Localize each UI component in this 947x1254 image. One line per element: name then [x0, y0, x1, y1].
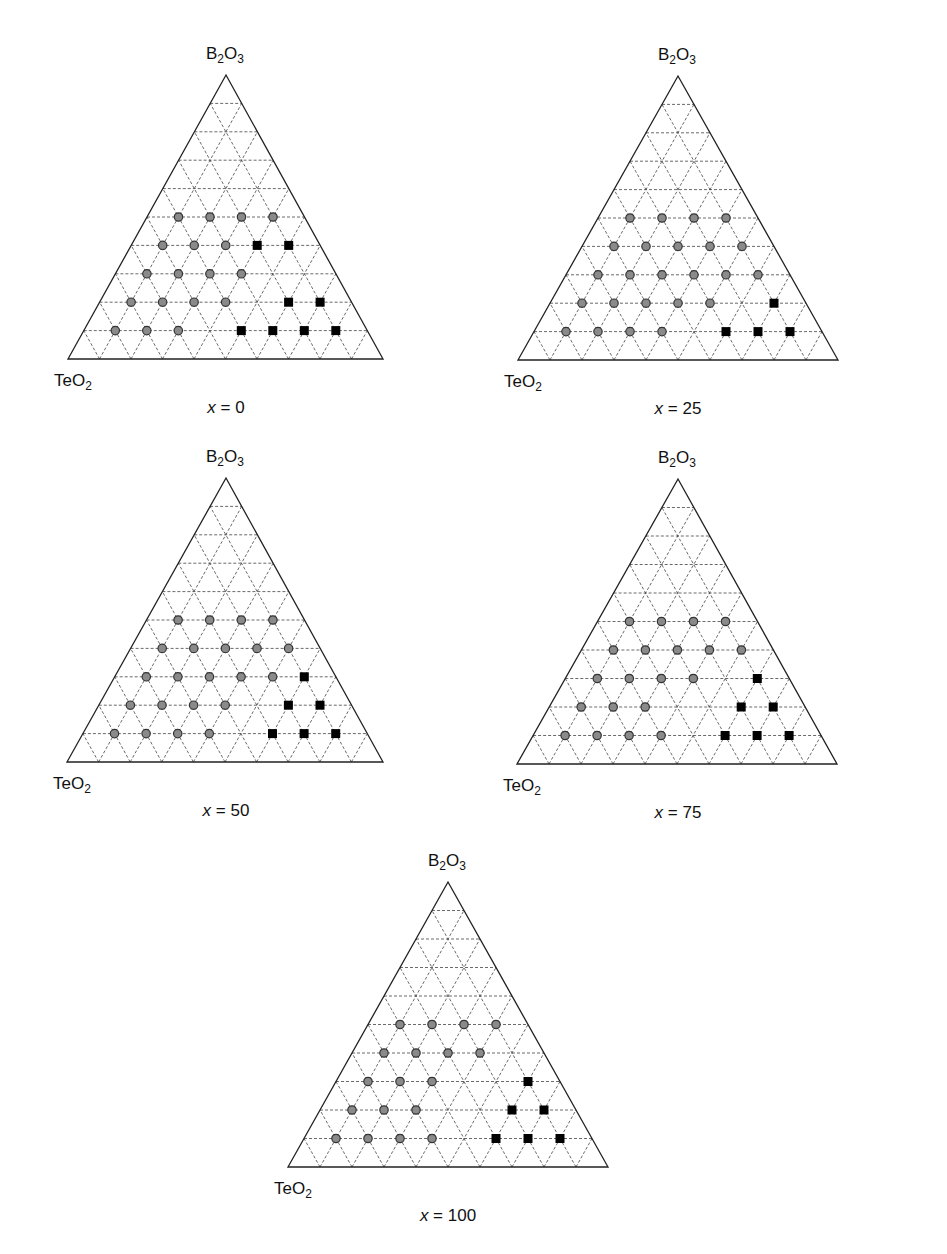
grid-line: [351, 734, 367, 762]
grid-line: [805, 736, 821, 765]
glass-point-marker: [658, 271, 666, 279]
crystal-point-marker: [786, 327, 795, 336]
grid-line: [100, 103, 242, 359]
glass-point-marker: [206, 213, 214, 221]
crystal-point-marker: [331, 326, 340, 335]
grid-line: [84, 331, 100, 359]
ternary-chart-3: [517, 479, 837, 764]
crystal-point-marker: [753, 731, 762, 740]
triangle-outline: [67, 478, 383, 762]
glass-point-marker: [284, 644, 292, 652]
crystal-point-marker: [540, 1106, 549, 1115]
glass-point-marker: [364, 1134, 372, 1142]
glass-point-marker: [348, 1106, 356, 1114]
triangle-outline: [517, 479, 837, 764]
glass-point-marker: [593, 674, 601, 682]
crystal-point-marker: [754, 327, 763, 336]
crystal-point-marker: [316, 701, 325, 710]
grid-line: [210, 506, 351, 762]
ternary-chart-2: [67, 478, 383, 762]
glass-point-marker: [610, 242, 618, 250]
grid-line: [741, 679, 789, 765]
glass-point-marker: [396, 1077, 404, 1085]
ternary-chart-1: [518, 76, 838, 360]
crystal-point-marker: [284, 241, 293, 250]
grid-line: [352, 331, 368, 359]
crystal-point-marker: [785, 731, 794, 740]
crystal-point-marker: [737, 703, 746, 712]
grid-line: [598, 218, 678, 360]
glass-point-marker: [142, 673, 150, 681]
glass-point-marker: [237, 616, 245, 624]
crystal-point-marker: [722, 327, 731, 336]
glass-point-marker: [158, 701, 166, 709]
glass-point-marker: [705, 646, 713, 654]
glass-point-marker: [380, 1049, 388, 1057]
glass-point-marker: [221, 298, 229, 306]
glass-point-marker: [626, 271, 634, 279]
glass-point-marker: [737, 646, 745, 654]
glass-point-marker: [610, 299, 618, 307]
glass-point-marker: [690, 214, 698, 222]
glass-point-marker: [206, 270, 214, 278]
glass-point-marker: [641, 703, 649, 711]
glass-point-marker: [577, 703, 585, 711]
glass-point-marker: [237, 270, 245, 278]
grid-line: [742, 275, 790, 360]
glass-point-marker: [412, 1106, 420, 1114]
glass-point-marker: [476, 1049, 484, 1057]
glass-point-marker: [594, 271, 602, 279]
glass-point-marker: [641, 646, 649, 654]
grid-line: [432, 911, 576, 1168]
grid-line: [336, 1082, 384, 1168]
glass-point-marker: [428, 1077, 436, 1085]
triangle-outline: [68, 75, 383, 359]
glass-point-marker: [269, 616, 277, 624]
glass-point-marker: [127, 298, 135, 306]
glass-point-marker: [706, 242, 714, 250]
grid-line: [147, 620, 226, 762]
glass-point-marker: [158, 298, 166, 306]
crystal-point-marker: [331, 729, 340, 738]
grid-line: [598, 622, 678, 765]
glass-point-marker: [642, 242, 650, 250]
glass-point-marker: [237, 673, 245, 681]
glass-point-marker: [609, 646, 617, 654]
glass-point-marker: [205, 729, 213, 737]
grid-line: [304, 1139, 320, 1168]
glass-point-marker: [626, 214, 634, 222]
crystal-point-marker: [721, 731, 730, 740]
glass-point-marker: [174, 326, 182, 334]
glass-point-marker: [689, 674, 697, 682]
glass-point-marker: [159, 241, 167, 249]
glass-point-marker: [657, 731, 665, 739]
glass-point-marker: [738, 242, 746, 250]
glass-point-marker: [754, 271, 762, 279]
grid-line: [662, 508, 805, 765]
glass-point-marker: [221, 701, 229, 709]
crystal-point-marker: [556, 1134, 565, 1143]
glass-point-marker: [174, 270, 182, 278]
crystal-point-marker: [524, 1077, 533, 1086]
glass-point-marker: [126, 701, 134, 709]
glass-point-marker: [174, 673, 182, 681]
glass-point-marker: [143, 326, 151, 334]
crystal-point-marker: [268, 729, 277, 738]
crystal-point-marker: [300, 326, 309, 335]
grid-line: [550, 104, 694, 360]
glass-point-marker: [658, 214, 666, 222]
glass-point-marker: [190, 241, 198, 249]
glass-point-marker: [460, 1020, 468, 1028]
crystal-point-marker: [770, 299, 779, 308]
crystal-point-marker: [300, 729, 309, 738]
grid-line: [210, 103, 351, 359]
glass-point-marker: [380, 1106, 388, 1114]
glass-point-marker: [237, 213, 245, 221]
glass-point-marker: [722, 271, 730, 279]
glass-point-marker: [593, 731, 601, 739]
grid-line: [368, 1025, 448, 1168]
glass-point-marker: [444, 1049, 452, 1057]
glass-point-marker: [396, 1134, 404, 1142]
grid-line: [226, 217, 305, 359]
grid-line: [533, 736, 549, 765]
